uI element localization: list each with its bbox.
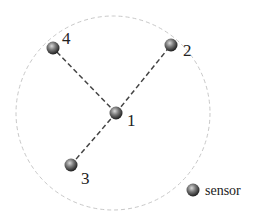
legend-label: sensor: [205, 183, 241, 198]
sensor-network-diagram: 1234 sensor: [0, 0, 256, 212]
node-label-1: 1: [127, 111, 136, 130]
edge-1-4: [53, 48, 116, 113]
legend: sensor: [187, 183, 242, 198]
sensor-node-3: [65, 159, 78, 172]
node-label-4: 4: [62, 29, 71, 48]
sensor-node-1: [110, 107, 123, 120]
edge-1-3: [71, 113, 116, 165]
nodes: 1234: [47, 29, 192, 188]
sensor-icon: [187, 184, 200, 197]
sensor-node-2: [165, 39, 178, 52]
node-label-3: 3: [81, 169, 90, 188]
edge-1-2: [116, 45, 171, 113]
edges: [53, 45, 171, 165]
sensor-node-4: [47, 42, 60, 55]
node-label-2: 2: [183, 41, 192, 60]
